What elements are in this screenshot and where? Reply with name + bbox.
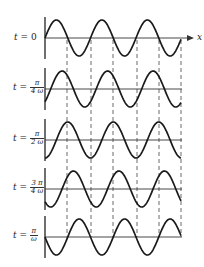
fraction-denominator: 4 ω [30, 88, 44, 95]
x-axis-label: x [197, 32, 202, 42]
fraction-denominator: 4 ω [30, 188, 44, 195]
time-label-prefix: t = [14, 32, 31, 42]
time-label: t = πω [13, 228, 38, 243]
time-label: t = 0 [14, 33, 37, 42]
time-label: t = 3 π4 ω [13, 180, 44, 195]
time-label-prefix: t = [13, 82, 30, 92]
time-label-prefix: t = [13, 230, 30, 240]
time-fraction: 3 π4 ω [30, 180, 44, 195]
time-fraction: π4 ω [30, 80, 44, 95]
fraction-denominator: ω [30, 236, 38, 243]
time-value: 0 [31, 32, 37, 42]
time-fraction: π2 ω [30, 131, 44, 146]
time-label-prefix: t = [13, 182, 30, 192]
time-label-prefix: t = [13, 133, 30, 143]
time-label: t = π4 ω [13, 80, 44, 95]
time-label: t = π2 ω [13, 131, 44, 146]
arrow-head-icon [187, 35, 194, 41]
time-fraction: πω [30, 228, 38, 243]
fraction-denominator: 2 ω [30, 139, 44, 146]
